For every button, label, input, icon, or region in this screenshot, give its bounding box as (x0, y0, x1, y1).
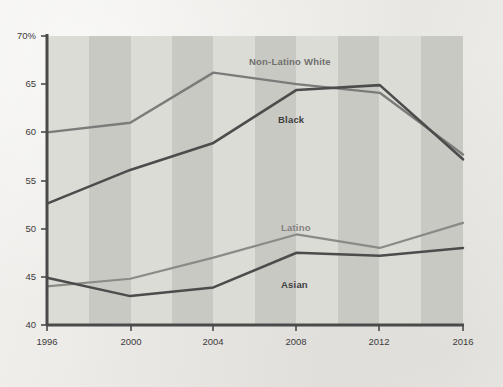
y-tick-label-60: 60 (2, 126, 36, 137)
y-tick-label-50: 50 (2, 223, 36, 234)
y-tick-label-45: 45 (2, 271, 36, 282)
y-tick-label-55: 55 (2, 175, 36, 186)
series-label-non-latino-white: Non-Latino White (249, 56, 331, 67)
x-tick-label-2000: 2000 (106, 336, 156, 347)
x-tick-label-2012: 2012 (354, 336, 404, 347)
y-tick-label-70: 70% (2, 30, 36, 41)
chart-figure: 70% 65 60 55 50 45 40 1996 2000 2004 200… (0, 0, 503, 387)
y-tick-label-65: 65 (2, 78, 36, 89)
x-tick-label-1996: 1996 (22, 336, 72, 347)
series-label-asian: Asian (281, 279, 308, 290)
x-tick-label-2008: 2008 (271, 336, 321, 347)
x-tick-label-2004: 2004 (188, 336, 238, 347)
series-label-black: Black (278, 114, 304, 125)
series-label-latino: Latino (281, 222, 311, 233)
x-tick-label-2016: 2016 (438, 336, 488, 347)
y-tick-label-40: 40 (2, 319, 36, 330)
